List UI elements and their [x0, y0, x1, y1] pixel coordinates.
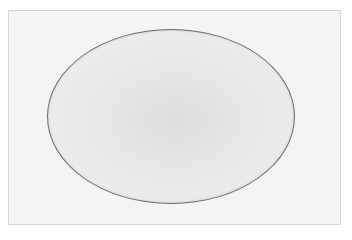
drawn-oval — [47, 29, 295, 204]
